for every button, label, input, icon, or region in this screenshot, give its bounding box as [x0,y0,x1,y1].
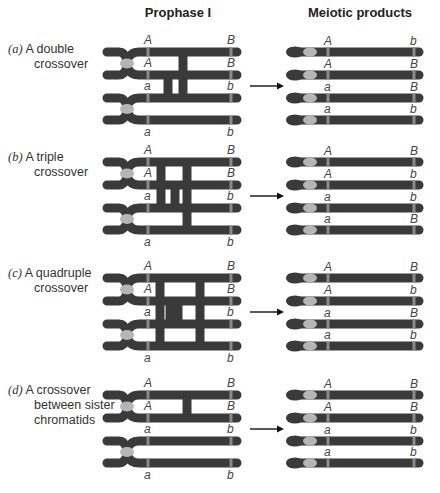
gene-label: A [143,143,152,157]
gene-label: b [227,189,234,203]
arrow-head-icon [277,309,284,316]
locus-band-a [147,459,150,468]
gene-label: b [410,283,417,297]
centromere [120,402,134,412]
arrow-head-icon [277,193,284,200]
gene-label: B [227,282,235,296]
gene-label: A [323,400,332,414]
gene-label: B [410,400,418,414]
prophase-panel-a: ABABabab [107,33,237,139]
gene-label: a [144,189,151,203]
products-panel-a: AbABaBab [250,34,419,126]
gene-label: b [227,422,234,436]
gene-label: b [410,445,417,459]
gene-label: a [144,125,151,139]
gene-label: b [410,423,417,437]
locus-band-b [230,459,233,468]
crossover-bridge [179,52,188,98]
crossover-bridge [164,75,173,98]
centromere [303,116,317,125]
gene-label: a [144,79,151,93]
gene-label: A [323,144,332,158]
centromere [120,285,134,295]
centromere [303,437,317,446]
gene-label: a [144,351,151,365]
gene-label: B [227,259,235,273]
gene-label: B [227,376,235,390]
prophase-panel-b: ABABabab [107,143,237,249]
centromere [303,414,317,423]
gene-label: b [227,79,234,93]
chromatid-body [127,208,237,217]
gene-label: b [227,125,234,139]
chromatid-body [127,98,237,107]
arrow-head-icon [277,83,284,90]
gene-label: A [143,33,152,47]
chromatid-body [127,441,237,450]
gene-label: a [324,190,331,204]
locus-band-b [230,94,233,103]
gene-label: a [324,212,331,226]
gene-label: B [410,80,418,94]
crossover-bridge [166,301,175,324]
gene-label: A [323,283,332,297]
centromere [303,181,317,190]
crossover-bridge [196,278,205,346]
centromere [120,214,134,224]
centromere [303,158,317,167]
centromere [120,169,134,179]
locus-band-b [230,204,233,213]
centromere [303,204,317,213]
gene-label: A [143,376,152,390]
gene-label: B [410,377,418,391]
products-panel-b: ABAbabaB [250,144,419,236]
chromatid-body [127,222,237,231]
locus-band-a [147,320,150,329]
prophase-panel-d: ABABabab [107,376,237,482]
centromere [120,330,134,340]
gene-label: B [410,57,418,71]
centromere [303,94,317,103]
chromatid-body [127,455,237,464]
gene-label: A [323,377,332,391]
centromere [303,226,317,235]
gene-label: A [143,282,152,296]
gene-label: B [227,33,235,47]
crossover-bridge [183,162,192,230]
gene-label: a [324,80,331,94]
gene-label: B [227,166,235,180]
centromere [303,342,317,351]
gene-label: B [227,143,235,157]
gene-label: b [410,167,417,181]
centromere [303,391,317,400]
chromatid-body [127,338,237,347]
gene-label: B [227,399,235,413]
locus-band-a [147,116,150,125]
gene-label: A [143,56,152,70]
locus-band-a [147,342,150,351]
gene-label: A [323,34,332,48]
products-panel-d: ABABabab [250,377,419,469]
locus-band-b [230,226,233,235]
meiosis-diagram: ABABababAbABaBabABABababABAbabaBABABabab… [0,0,440,493]
gene-label: b [410,328,417,342]
gene-label: A [143,166,152,180]
chromatid-body [127,112,237,121]
centromere [120,59,134,69]
gene-label: A [323,260,332,274]
gene-label: A [143,259,152,273]
locus-band-a [147,226,150,235]
gene-label: B [410,260,418,274]
centromere [120,447,134,457]
products-panel-c: ABAbaBab [250,260,419,352]
crossover-bridge [157,162,166,208]
crossover-bridge [156,278,165,346]
gene-label: a [144,422,151,436]
gene-label: B [410,144,418,158]
locus-band-a [147,437,150,446]
gene-label: b [227,468,234,482]
locus-band-a [147,204,150,213]
gene-label: a [324,423,331,437]
crossover-bridge [171,185,180,208]
crossover-bridge [183,395,192,418]
